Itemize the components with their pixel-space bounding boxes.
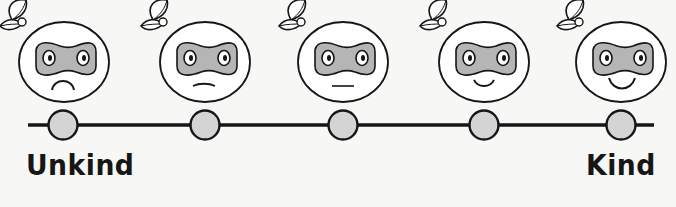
scale-label-unkind: Unkind [26, 148, 134, 182]
face-very-sad [0, 0, 109, 102]
scale-point-1[interactable] [49, 111, 78, 140]
scale-point-2[interactable] [191, 111, 220, 140]
face-happy [420, 0, 529, 102]
scale-point-4[interactable] [470, 111, 499, 140]
scale-point-3[interactable] [329, 111, 358, 140]
face-very-happy [557, 0, 666, 102]
face-sad [141, 0, 250, 102]
face-neutral [279, 0, 388, 102]
scale-point-5[interactable] [607, 111, 636, 140]
scale-label-kind: Kind [586, 148, 656, 182]
